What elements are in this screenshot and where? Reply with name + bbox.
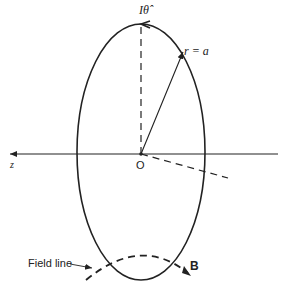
z-axis-label: z	[10, 160, 14, 170]
current-label: Iθ̂	[139, 4, 149, 16]
origin-label: O	[136, 160, 145, 171]
field-line	[86, 256, 188, 280]
field-label: B	[190, 260, 199, 272]
origin-point	[139, 152, 143, 156]
field-line-pointer	[70, 264, 92, 268]
radius-arrow	[141, 52, 183, 154]
diagram-canvas	[0, 0, 284, 288]
field-line-label: Field line	[28, 258, 72, 269]
radius-label: r = a	[184, 45, 209, 57]
oblique-dashed-line	[141, 154, 228, 178]
